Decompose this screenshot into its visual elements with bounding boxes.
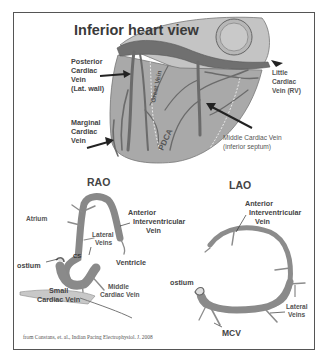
- svg-text:Cardiac Vein: Cardiac Vein: [37, 295, 80, 304]
- lao-lateral-veins-label: Lateral Veins: [286, 303, 308, 318]
- posterior-cardiac-vein-label: Posterior Cardiac Vein (Lat. wall): [71, 57, 105, 93]
- rao-panel: RAO Atrium Anterior Interventricular Vei…: [17, 176, 186, 318]
- svg-text:Middle Cardiac Vein: Middle Cardiac Vein: [223, 134, 282, 141]
- svg-text:Interventricular: Interventricular: [133, 217, 186, 226]
- ivc-inner: [220, 23, 248, 51]
- svg-text:Cardiac: Cardiac: [71, 127, 97, 136]
- svg-text:Veins: Veins: [288, 311, 306, 318]
- svg-text:Cardiac Vein: Cardiac Vein: [100, 291, 140, 298]
- figure-caption: from Constans, et. al., Indian Pacing El…: [23, 334, 153, 340]
- lao-ostium-label: ostium: [170, 278, 194, 287]
- av-groove-line: [80, 298, 132, 318]
- rao-anterior-iv-vein-label: Anterior Interventricular Vein: [128, 208, 186, 235]
- inferior-heart-panel: Great Vein PDCA Inferior heart view Post…: [71, 17, 301, 163]
- svg-text:Anterior: Anterior: [245, 199, 273, 208]
- svg-text:Marginal: Marginal: [71, 118, 101, 127]
- rao-lateral-pointer: [89, 247, 91, 255]
- rao-middle-cardiac-vein-label: Middle Cardiac Vein: [100, 283, 140, 298]
- svg-text:Vein (RV): Vein (RV): [272, 87, 301, 95]
- lao-anterior-iv-vein-label: Anterior Interventricular Vein: [245, 199, 302, 226]
- cardiac-veins-diagram: Great Vein PDCA Inferior heart view Post…: [0, 0, 324, 362]
- lao-title: LAO: [229, 179, 251, 191]
- svg-text:Middle: Middle: [108, 283, 129, 290]
- svg-text:(Lat. wall): (Lat. wall): [71, 84, 105, 93]
- rao-ostium: [56, 258, 64, 262]
- marginal-cardiac-vein-label: Marginal Cardiac Vein: [71, 118, 101, 145]
- svg-text:Vein: Vein: [255, 217, 270, 226]
- rao-title: RAO: [87, 176, 110, 188]
- svg-text:Vein: Vein: [71, 136, 86, 145]
- svg-text:Lateral: Lateral: [286, 303, 308, 310]
- svg-text:Interventricular: Interventricular: [249, 208, 302, 217]
- svg-text:(inferior septum): (inferior septum): [223, 143, 271, 151]
- svg-text:Lateral: Lateral: [92, 231, 114, 238]
- rao-cs-label: CS: [73, 253, 81, 259]
- rao-ostium-label: ostium: [17, 261, 41, 270]
- rao-ostium-pointer: [46, 259, 58, 262]
- svg-text:Vein: Vein: [71, 75, 86, 84]
- rao-ventricle-label: Ventricle: [116, 258, 146, 267]
- svg-text:Little: Little: [272, 69, 288, 76]
- svg-text:Posterior: Posterior: [71, 57, 103, 66]
- rao-lateral-veins-label: Lateral Veins: [92, 231, 114, 246]
- rao-anterior-pointer: [120, 223, 130, 226]
- lao-lateral-pointer-2: [270, 312, 285, 313]
- svg-text:Vein: Vein: [146, 226, 161, 235]
- svg-text:Veins: Veins: [95, 239, 113, 246]
- svg-text:Small: Small: [49, 286, 68, 295]
- rao-atrium-label: Atrium: [26, 215, 47, 222]
- top-panel-title: Inferior heart view: [74, 22, 200, 38]
- lao-ostium: [195, 288, 204, 296]
- little-cardiac-vein-label: Little Cardiac Vein (RV): [272, 69, 301, 95]
- little-arrowhead: [271, 60, 283, 67]
- svg-text:Cardiac: Cardiac: [71, 66, 97, 75]
- middle-cardiac-vein-label: Middle Cardiac Vein (inferior septum): [223, 134, 282, 151]
- marginal-arrow: [87, 142, 108, 148]
- lao-cs-thick: [202, 282, 290, 310]
- lao-mcv-label: MCV: [222, 328, 241, 338]
- svg-text:Cardiac: Cardiac: [272, 78, 297, 85]
- lao-panel: LAO Anterior Interventricular Vein ostiu…: [170, 179, 308, 338]
- svg-text:Anterior: Anterior: [128, 208, 156, 217]
